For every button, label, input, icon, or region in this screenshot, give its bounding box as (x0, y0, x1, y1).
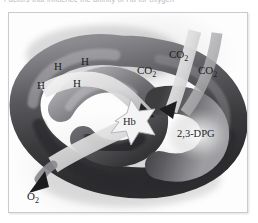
figure-canvas: H H H H CO2 CO2 CO2 Hb 2,3-DPG O2 (9, 13, 247, 212)
top-caption-strip: Factors that influence the affinity of H… (0, 0, 258, 8)
figure-caption-text: Factors that influence the affinity of H… (4, 0, 174, 4)
dpg-binding-glow (166, 108, 232, 162)
hemoglobin-torus-illustration (9, 13, 248, 213)
figure-frame: H H H H CO2 CO2 CO2 Hb 2,3-DPG O2 (8, 12, 248, 213)
